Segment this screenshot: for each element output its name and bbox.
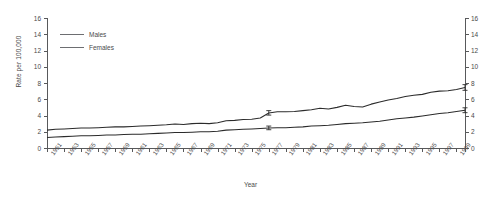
y-tick-label-l-6: 6 [22,96,41,103]
y-tick-r-4 [465,116,469,117]
y-tick-label-r-12: 12 [471,47,490,54]
y-tick-label-l-16: 16 [22,15,41,22]
y-tick-label-r-10: 10 [471,63,490,70]
y-tick-label-l-8: 8 [22,80,41,87]
chart-figure: Rate per 100,000 Year 002244668810101212… [0,0,501,197]
y-tick-label-l-2: 2 [22,128,41,135]
y-tick-r-6 [465,99,469,100]
y-tick-r-12 [465,51,469,52]
cut-off-title-fragment [22,0,482,4]
y-tick-r-14 [465,34,469,35]
line-males [47,87,465,130]
series-lines [47,18,465,148]
y-tick-label-r-14: 14 [471,31,490,38]
y-tick-label-l-10: 10 [22,63,41,70]
y-tick-r-8 [465,83,469,84]
y-tick-r-16 [465,18,469,19]
y-tick-label-r-4: 4 [471,112,490,119]
y-tick-label-r-16: 16 [471,15,490,22]
y-tick-label-r-6: 6 [471,96,490,103]
y-tick-r-10 [465,67,469,68]
x-axis-label: Year [0,181,501,188]
y-tick-r-2 [465,132,469,133]
y-tick-label-r-8: 8 [471,80,490,87]
line-females [47,110,465,137]
y-tick-label-l-12: 12 [22,47,41,54]
y-axis-label: Rate per 100,000 [15,7,22,117]
y-tick-label-l-14: 14 [22,31,41,38]
plot-area [47,18,465,148]
y-tick-label-l-0: 0 [22,145,41,152]
y-tick-label-r-0: 0 [471,145,490,152]
y-tick-label-r-2: 2 [471,128,490,135]
x-tick-2000 [465,148,466,152]
y-tick-label-l-4: 4 [22,112,41,119]
